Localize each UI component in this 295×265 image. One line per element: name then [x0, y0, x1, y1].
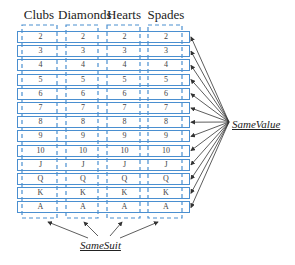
same-suit-arrow: [48, 222, 88, 238]
same-suit-arrow: [120, 222, 158, 238]
same-value-arrow: [191, 122, 229, 151]
same-suit-label: SameSuit: [80, 239, 121, 251]
suit-column-box: [148, 25, 182, 218]
same-value-arrow: [191, 94, 229, 122]
same-suit-arrow: [110, 222, 122, 236]
same-value-arrow: [191, 65, 229, 122]
same-value-arrow: [191, 122, 229, 207]
same-value-arrow: [191, 51, 229, 122]
same-value-label: SameValue: [232, 118, 280, 130]
suit-column-box: [107, 25, 140, 218]
same-suit-arrow: [84, 222, 98, 236]
arrows-layer: [0, 0, 295, 265]
same-value-arrow: [191, 37, 229, 122]
suit-column-box: [66, 25, 98, 218]
same-value-arrow: [191, 122, 229, 179]
suit-column-box: [22, 25, 57, 218]
same-value-arrow: [191, 122, 229, 193]
